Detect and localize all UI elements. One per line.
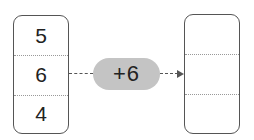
connector-right bbox=[160, 73, 178, 74]
output-cell-1[interactable] bbox=[185, 15, 239, 54]
input-cell-3: 4 bbox=[14, 95, 68, 133]
output-column bbox=[184, 14, 240, 134]
arrow-icon bbox=[177, 70, 184, 78]
output-cell-2[interactable] bbox=[185, 54, 239, 94]
connector-left bbox=[69, 73, 93, 74]
output-cell-3[interactable] bbox=[185, 94, 239, 133]
input-column: 5 6 4 bbox=[13, 15, 69, 134]
input-cell-1: 5 bbox=[14, 16, 68, 55]
input-cell-2: 6 bbox=[14, 55, 68, 95]
operation-pill: +6 bbox=[93, 58, 160, 90]
